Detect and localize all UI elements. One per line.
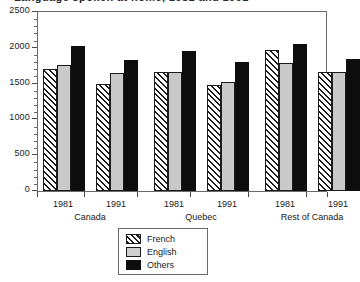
x-axis-group-label: Canada xyxy=(74,212,106,222)
french-swatch-icon xyxy=(126,234,141,244)
english-swatch-icon xyxy=(126,247,141,257)
x-axis-year-label: 1981 xyxy=(275,199,295,209)
others-swatch-icon xyxy=(126,260,141,270)
x-axis-group-label: Quebec xyxy=(185,212,217,222)
bar-french-canada-1981 xyxy=(43,69,57,191)
y-tick-label: 1000 xyxy=(9,113,30,122)
bar-others-quebec-1981 xyxy=(182,51,196,191)
y-tick-label: 2500 xyxy=(9,6,30,15)
bar-english-rest-of-canada-1981 xyxy=(279,63,293,191)
bar-french-canada-1991 xyxy=(96,84,110,191)
y-tick-label: 1500 xyxy=(9,78,30,87)
bar-french-quebec-1981 xyxy=(154,72,168,191)
bar-english-canada-1991 xyxy=(110,73,124,191)
plot-area xyxy=(37,11,327,192)
x-tick-mark xyxy=(248,192,249,197)
chart-title-cropped: Language spoken at home, 1981 and 1991 xyxy=(0,0,336,7)
bar-english-quebec-1991 xyxy=(221,82,235,191)
bar-others-canada-1991 xyxy=(124,60,138,191)
chart-legend: French English Others xyxy=(118,228,208,275)
y-tick-label: 2000 xyxy=(9,42,30,51)
x-axis-year-label: 1991 xyxy=(217,199,237,209)
chart-title-text: Language spoken at home, 1981 and 1991 xyxy=(0,0,336,3)
bar-others-quebec-1991 xyxy=(235,62,249,191)
y-axis: 05001000150020002500 xyxy=(0,11,37,192)
x-tick-mark xyxy=(37,192,38,197)
legend-label-others: Others xyxy=(147,260,174,271)
bar-others-rest-of-canada-1991 xyxy=(346,59,360,191)
x-axis-year-label: 1981 xyxy=(164,199,184,209)
x-tick-mark xyxy=(84,192,85,197)
bar-french-quebec-1991 xyxy=(207,85,221,191)
y-tick-label: 0 xyxy=(25,185,30,194)
x-axis-group-label: Rest of Canada xyxy=(281,212,344,222)
x-axis-year-label: 1991 xyxy=(106,199,126,209)
x-tick-mark xyxy=(190,192,191,197)
x-axis-year-label: 1981 xyxy=(53,199,73,209)
legend-label-english: English xyxy=(147,247,177,258)
bar-french-rest-of-canada-1991 xyxy=(318,72,332,191)
bar-others-rest-of-canada-1981 xyxy=(293,44,307,191)
bar-english-canada-1981 xyxy=(57,65,71,191)
bar-english-quebec-1981 xyxy=(168,72,182,191)
x-axis-year-label: 1991 xyxy=(328,199,348,209)
bar-others-canada-1981 xyxy=(71,46,85,191)
x-tick-mark xyxy=(137,192,138,197)
legend-label-french: French xyxy=(147,234,175,245)
x-tick-mark xyxy=(306,192,307,197)
x-axis: 198119911981199119811991CanadaQuebecRest… xyxy=(37,192,327,232)
y-tick-label: 500 xyxy=(14,149,30,158)
bar-french-rest-of-canada-1981 xyxy=(265,50,279,191)
bar-english-rest-of-canada-1991 xyxy=(332,72,346,191)
x-tick-mark xyxy=(327,192,328,197)
